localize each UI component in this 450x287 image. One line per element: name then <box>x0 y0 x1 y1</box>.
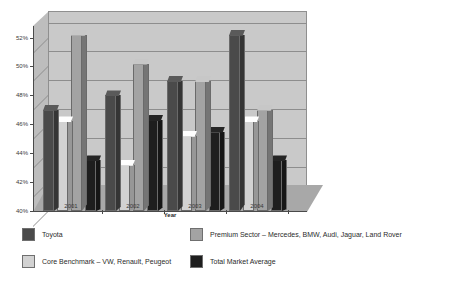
bar-side <box>282 160 287 211</box>
y-tick-mark <box>30 66 34 67</box>
legend-swatch-total-market-average <box>190 255 203 268</box>
y-tick-mark <box>30 153 34 154</box>
bar-side <box>206 81 211 211</box>
y-tick-mark <box>30 95 34 96</box>
y-tick-mark <box>30 124 34 125</box>
y-axis-tick-label: 42% <box>0 179 28 185</box>
bar-side <box>54 110 59 211</box>
bar-side <box>192 136 197 211</box>
x-axis-tick-label: 2002 <box>113 203 153 209</box>
y-axis-tick-label: 44% <box>0 150 28 156</box>
legend-item-core-benchmark[interactable]: Core Benchmark – VW, Renault, Peugeot <box>22 255 171 268</box>
bar-2002-series-0 <box>105 95 116 211</box>
bar-top <box>119 160 135 166</box>
bar-side <box>96 160 101 211</box>
bar-side <box>178 81 183 211</box>
bar-side <box>220 132 225 211</box>
legend-label-toyota: Toyota <box>42 230 63 239</box>
legend-item-premium-sector[interactable]: Premium Sector – Mercedes, BMW, Audi, Ja… <box>190 228 402 241</box>
y-axis-tick-label: 52% <box>0 35 28 41</box>
y-axis-tick-label: 48% <box>0 92 28 98</box>
bar-face <box>167 81 178 211</box>
bar-side <box>158 120 163 211</box>
bar-side <box>116 95 121 211</box>
bar-top <box>257 105 273 111</box>
bar-face <box>229 35 240 211</box>
legend-item-toyota[interactable]: Toyota <box>22 228 63 241</box>
y-tick-mark <box>30 182 34 183</box>
bar-2001-series-0 <box>43 110 54 211</box>
y-tick-mark <box>30 38 34 39</box>
legend-label-total-market-average: Total Market Average <box>210 257 276 266</box>
y-axis-tick-label: 50% <box>0 63 28 69</box>
chart-container: Average Resale Value as Percentage of Li… <box>0 0 450 287</box>
bar-top <box>209 127 225 133</box>
bar-top <box>229 30 245 36</box>
bar-2003-series-0 <box>167 81 178 211</box>
gridline <box>48 23 307 24</box>
y-axis-tick-label: 46% <box>0 121 28 127</box>
bar-2004-series-0 <box>229 35 240 211</box>
bar-side <box>254 121 259 211</box>
bar-top <box>105 90 121 96</box>
legend-swatch-toyota <box>22 228 35 241</box>
bar-top <box>85 155 101 161</box>
plot-area: 40%42%44%46%48%50%52% 2001200220032004 Y… <box>0 0 450 215</box>
bar-side <box>82 35 87 211</box>
bar-top <box>43 105 59 111</box>
legend-swatch-premium-sector <box>190 228 203 241</box>
bar-face <box>105 95 116 211</box>
bar-top <box>243 116 259 122</box>
bar-top <box>147 115 163 121</box>
bar-side <box>68 121 73 211</box>
x-axis-title: Year <box>0 212 340 218</box>
bar-top <box>71 30 87 36</box>
x-axis-tick-label: 2004 <box>237 203 277 209</box>
bar-face <box>43 110 54 211</box>
bar-side <box>240 35 245 211</box>
legend-label-premium-sector: Premium Sector – Mercedes, BMW, Audi, Ja… <box>210 230 402 239</box>
bar-top <box>181 131 197 137</box>
bar-top <box>271 155 287 161</box>
bar-top <box>195 76 211 82</box>
bar-side <box>268 110 273 211</box>
chart-legend: Toyota Premium Sector – Mercedes, BMW, A… <box>0 222 450 282</box>
bar-top <box>167 76 183 82</box>
legend-item-total-market-average[interactable]: Total Market Average <box>190 255 276 268</box>
x-axis-tick-label: 2003 <box>175 203 215 209</box>
x-axis-tick-label: 2001 <box>51 203 91 209</box>
legend-swatch-core-benchmark <box>22 255 35 268</box>
bar-side <box>144 64 149 211</box>
bar-top <box>133 59 149 65</box>
y-axis-line <box>33 26 34 212</box>
legend-label-core-benchmark: Core Benchmark – VW, Renault, Peugeot <box>42 257 171 266</box>
bar-top <box>57 116 73 122</box>
